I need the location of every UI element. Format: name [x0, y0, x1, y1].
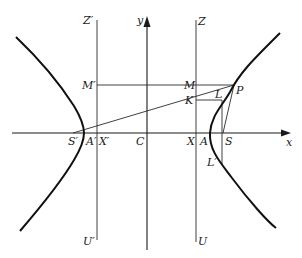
label-s: S	[225, 135, 233, 148]
label-k: K	[184, 94, 194, 107]
label-l-prime: L′	[206, 156, 217, 169]
label-s-prime: S′	[68, 135, 79, 148]
hyperbola-left-branch	[16, 37, 84, 231]
hyperbola-diagram: Z′ y Z M′ M K L P S′ A′ X′ C X A S x L′ …	[0, 0, 302, 258]
label-u-prime: U′	[83, 235, 95, 248]
label-l: L	[214, 88, 222, 101]
label-p: P	[235, 84, 244, 97]
label-x-point: X	[186, 135, 196, 148]
hyperbola-right-branch	[210, 33, 280, 228]
label-z-prime: Z′	[82, 14, 94, 27]
label-a-prime: A′	[85, 135, 97, 148]
label-y: y	[136, 14, 144, 27]
label-x-prime: X′	[98, 135, 110, 148]
line-p-s	[223, 85, 234, 133]
label-m-prime: M′	[81, 79, 96, 92]
label-a: A	[199, 135, 208, 148]
label-x-axis: x	[286, 136, 293, 149]
label-c: C	[136, 135, 145, 148]
x-axis	[12, 130, 291, 137]
label-u: U	[198, 235, 208, 248]
label-m: M	[183, 79, 196, 92]
label-z: Z	[197, 15, 206, 28]
